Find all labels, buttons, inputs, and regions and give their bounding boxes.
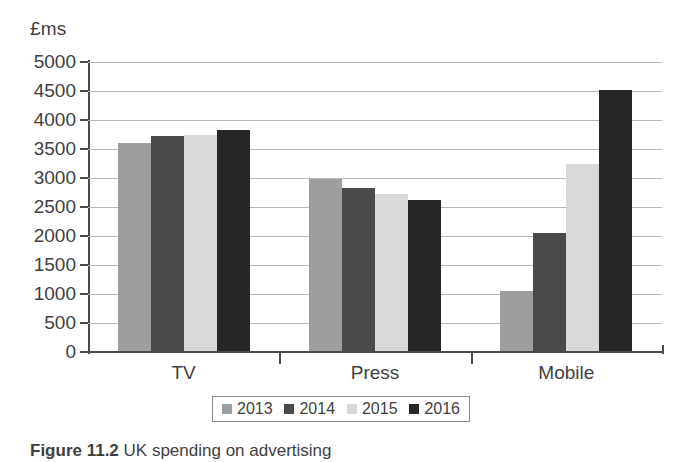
bar-tv-2013: [118, 143, 151, 352]
gridline: [88, 120, 662, 121]
bar-press-2015: [375, 194, 408, 352]
y-axis-tick-label: 4500: [4, 81, 76, 100]
y-axis-tick-label-wrap: 5000: [0, 52, 76, 72]
y-axis-tick-label-wrap: 4000: [0, 110, 76, 130]
legend-item-2016[interactable]: 2016: [409, 401, 460, 417]
legend-label: 2015: [362, 401, 398, 417]
x-axis-label-press: Press: [279, 362, 470, 384]
y-axis-tick-label-wrap: 3000: [0, 168, 76, 188]
x-axis-right-cap: [662, 345, 664, 354]
y-axis-tick-label: 2000: [4, 226, 76, 245]
legend-label: 2016: [424, 401, 460, 417]
legend-item-2015[interactable]: 2015: [347, 401, 398, 417]
legend-item-2014[interactable]: 2014: [284, 401, 335, 417]
legend-item-2013[interactable]: 2013: [222, 401, 273, 417]
bar-mobile-2016: [599, 90, 632, 352]
y-axis-tick-label: 1000: [4, 284, 76, 303]
gridline: [88, 62, 662, 63]
bar-press-2014: [342, 188, 375, 352]
bar-press-2013: [309, 179, 342, 352]
y-axis-tick-label-wrap: 2000: [0, 226, 76, 246]
x-axis-label-mobile: Mobile: [471, 362, 662, 384]
y-axis-tick-label: 1500: [4, 255, 76, 274]
y-axis-tick-label: 500: [4, 313, 76, 332]
x-axis-line: [88, 351, 664, 353]
y-axis-tick-label: 3500: [4, 139, 76, 158]
legend-swatch-icon: [347, 404, 357, 414]
y-axis-tick-label-wrap: 1500: [0, 255, 76, 275]
bar-tv-2016: [217, 130, 250, 352]
legend-swatch-icon: [409, 404, 419, 414]
bar-press-2016: [408, 200, 441, 352]
y-axis-tick-label: 3000: [4, 168, 76, 187]
caption-number: Figure 11.2: [30, 441, 119, 460]
bar-tv-2015: [184, 135, 217, 353]
legend-label: 2014: [299, 401, 335, 417]
y-axis-tick-label-wrap: 1000: [0, 284, 76, 304]
y-axis-tick-label-wrap: 2500: [0, 197, 76, 217]
y-axis-unit-label: £ms: [30, 18, 67, 40]
bar-mobile-2015: [566, 164, 599, 353]
y-axis-tick-label: 2500: [4, 197, 76, 216]
y-axis-tick-label-wrap: 4500: [0, 81, 76, 101]
figure-container: £ms 050010001500200025003000350040004500…: [0, 0, 679, 462]
figure-caption: Figure 11.2 UK spending on advertising: [30, 441, 670, 461]
y-axis-tick-label: 0: [4, 342, 76, 361]
legend-swatch-icon: [284, 404, 294, 414]
chart-legend: 2013201420152016: [212, 396, 470, 422]
plot-area: [88, 62, 662, 352]
bar-tv-2014: [151, 136, 184, 352]
bar-mobile-2014: [533, 233, 566, 352]
y-axis-tick-label-wrap: 3500: [0, 139, 76, 159]
x-axis-label-tv: TV: [88, 362, 279, 384]
y-axis-tick-label-wrap: 500: [0, 313, 76, 333]
caption-text: UK spending on advertising: [124, 441, 332, 460]
y-axis-tick-label: 4000: [4, 110, 76, 129]
bar-mobile-2013: [500, 291, 533, 352]
y-axis-tick-label-wrap: 0: [0, 342, 76, 362]
gridline: [88, 91, 662, 92]
legend-swatch-icon: [222, 404, 232, 414]
legend-label: 2013: [237, 401, 273, 417]
y-axis-tick-label: 5000: [4, 52, 76, 71]
